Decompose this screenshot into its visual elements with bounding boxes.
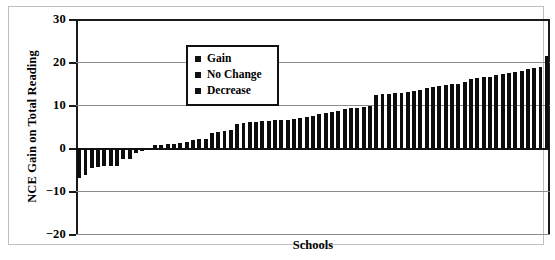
bar [166,144,170,148]
bar [77,148,81,178]
bar [185,142,189,148]
bar [475,78,479,148]
bar [374,95,378,148]
bar [418,90,422,148]
gridline [76,234,550,235]
bar [463,82,467,148]
bar [412,91,416,148]
bar [381,94,385,148]
y-axis-tick-label: 30 [53,12,66,27]
bar [115,148,119,166]
y-axis-tick-label: −20 [46,227,66,242]
bar [469,79,473,148]
bar [121,148,125,159]
bar [90,148,94,168]
bar [545,56,549,148]
y-axis-title: NCE Gain on Total Reading [23,19,41,234]
bar [159,145,163,148]
bar [532,68,536,148]
y-axis-tick [69,191,76,193]
bar [273,120,277,148]
bar [279,120,283,148]
bar [242,123,246,148]
bar [172,144,176,148]
bar [368,106,372,148]
bar [526,69,530,148]
y-axis-tick [69,148,76,150]
bar [336,111,340,148]
bar [254,122,258,148]
y-axis-tick [69,62,76,64]
x-axis-title-label: Schools [293,238,333,252]
y-axis-tick [69,105,76,107]
bar [204,139,208,148]
bar [520,71,524,148]
bar [140,148,144,151]
bar [267,121,271,148]
bar [456,84,460,149]
legend-swatch-square-icon [195,56,201,62]
bar [96,148,100,167]
bar [229,130,233,148]
bar [387,94,391,148]
legend-label-no-change: No Change [207,69,262,81]
bar [494,75,498,148]
bar [450,84,454,148]
bar [324,113,328,148]
x-axis-title: Schools [76,238,550,253]
bar [109,148,113,166]
bar [147,148,151,150]
bar [539,67,543,148]
plot-area: 3020100−10−20 Gain No Change Decrease [76,19,550,234]
y-axis-tick [69,234,76,236]
bar [362,107,366,148]
bar [84,148,88,175]
bar [191,140,195,148]
legend-item-no-change: No Change [195,67,271,83]
bar [102,148,106,166]
bar [298,118,302,148]
bar-series [76,19,550,234]
bar [197,139,201,148]
bar [235,124,239,148]
bar [501,74,505,148]
bar [330,112,334,148]
y-axis-tick-label: 20 [53,55,66,70]
bar [437,86,441,148]
bar [178,143,182,148]
figure-frame: NCE Gain on Total Reading 3020100−10−20 … [8,6,544,245]
legend-label-decrease: Decrease [207,85,251,97]
bar [488,77,492,148]
bar [349,108,353,148]
chart-legend[interactable]: Gain No Change Decrease [186,45,279,106]
bar [292,119,296,148]
bar [393,93,397,148]
bar [248,122,252,148]
legend-item-gain: Gain [195,51,271,67]
bar [311,116,315,148]
y-axis-tick-label: −10 [46,184,66,199]
y-axis-title-label: NCE Gain on Total Reading [25,50,40,203]
bar [513,72,517,148]
bar [153,145,157,148]
bar [406,92,410,148]
bar [343,109,347,148]
bar [216,132,220,148]
bar [507,73,511,148]
bar [444,85,448,148]
y-axis-tick [69,19,76,21]
bar [431,87,435,148]
bar [425,88,429,148]
bar [305,117,309,148]
bar [128,148,132,159]
legend-label-gain: Gain [207,53,231,65]
legend-item-decrease: Decrease [195,83,271,99]
bar [286,120,290,148]
bar [223,131,227,148]
bar [134,148,138,153]
y-axis-tick-label: 0 [60,141,66,156]
bar [400,93,404,148]
bar [355,108,359,148]
y-axis-tick-label: 10 [53,98,66,113]
legend-swatch-square-icon [195,72,201,78]
